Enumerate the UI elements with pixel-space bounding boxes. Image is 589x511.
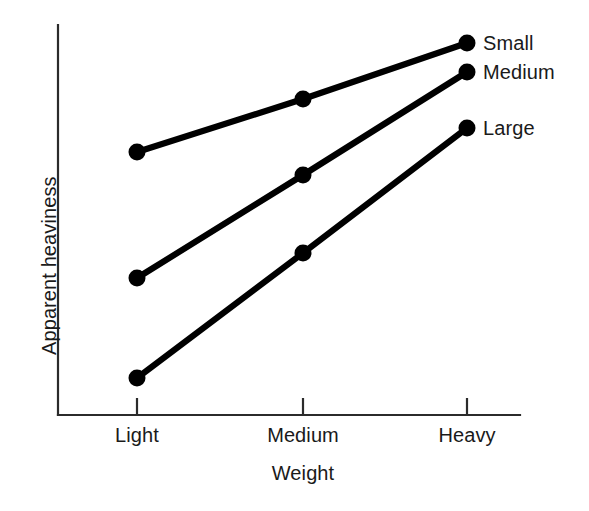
x-axis-title: Weight bbox=[272, 462, 335, 485]
data-point-large-light bbox=[129, 370, 146, 387]
data-point-large-heavy bbox=[459, 120, 476, 137]
x-tick-label-light: Light bbox=[115, 424, 159, 447]
data-point-large-medium bbox=[295, 245, 312, 262]
data-point-small-light bbox=[129, 144, 146, 161]
data-point-small-medium bbox=[295, 91, 312, 108]
data-point-medium-light bbox=[129, 270, 146, 287]
x-tick-label-heavy: Heavy bbox=[438, 424, 495, 447]
data-point-small-heavy bbox=[459, 35, 476, 52]
x-tick-label-medium: Medium bbox=[267, 424, 339, 447]
figure-container: Small Medium Large Light Medium Heavy We… bbox=[0, 0, 589, 511]
y-axis-title: Apparent heaviness bbox=[38, 176, 61, 355]
data-point-medium-heavy bbox=[459, 64, 476, 81]
series-label-small: Small bbox=[483, 32, 534, 55]
series-label-large: Large bbox=[483, 117, 535, 140]
series-label-medium: Medium bbox=[483, 61, 555, 84]
data-point-medium-medium bbox=[295, 167, 312, 184]
